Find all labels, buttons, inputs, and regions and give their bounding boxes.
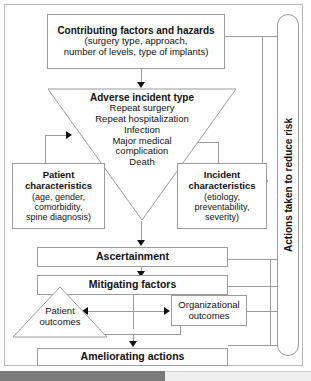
horizontal-scrollbar-thumb[interactable] [0,371,165,381]
diagram-canvas: Contributing factors and hazards (surger… [0,0,311,381]
patient-outcomes-line2: outcomes [12,317,108,328]
adverse-item-2: Infection [47,125,237,136]
node-patient-outcomes[interactable]: Patient outcomes [12,286,108,338]
connector-organizational-to-actions [246,311,277,312]
node-contributing-factors[interactable]: Contributing factors and hazards (surger… [47,14,225,69]
connector-adverse-to-ascertainment [141,221,142,242]
connector-ameliorating-to-actions [228,345,277,346]
arrowhead-to-ameliorating [129,341,137,347]
organizational-outcomes-line1: Organizational [178,300,239,311]
node-actions-taken-panel[interactable]: Actions taken to reduce risk [277,14,299,356]
node-organizational-outcomes[interactable]: Organizational outcomes [171,295,247,326]
connector-mitigating-to-actions [228,286,277,287]
patient-char-detail-3: spine diagnosis) [26,212,91,222]
arrowhead-adverse-to-ascertainment [137,240,145,246]
incident-char-detail-3: severity) [205,212,239,222]
node-patient-characteristics[interactable]: Patient characteristics (age, gender, co… [12,163,105,229]
organizational-outcomes-line2: outcomes [188,311,229,322]
incident-char-detail-2: preventability, [195,202,250,212]
connector-contributing-to-actions-h [225,36,277,37]
incident-char-title-2: characteristics [188,181,255,192]
incident-char-detail-1: (etiology, [204,192,240,202]
adverse-text-block: Adverse incident type Repeat surgery Rep… [47,92,237,168]
contributing-detail-line2: number of levels, type of implants) [64,47,209,58]
node-incident-characteristics[interactable]: Incident characteristics (etiology, prev… [177,163,267,229]
patient-char-title-2: characteristics [25,181,92,192]
connector-actions-bus-lower [270,259,271,345]
patient-char-detail-1: (age, gender, [32,192,85,202]
ameliorating-label: Ameliorating actions [81,351,185,363]
connector-actions-bus-vertical [262,36,263,182]
connector-patient-char-up [45,135,46,164]
node-ascertainment[interactable]: Ascertainment [37,247,228,267]
node-ameliorating-actions[interactable]: Ameliorating actions [37,348,228,366]
ascertainment-label: Ascertainment [96,251,169,263]
actions-panel-label: Actions taken to reduce risk [283,118,294,252]
patient-char-detail-2: comorbidity, [35,202,83,212]
patient-outcomes-text: Patient outcomes [12,306,108,327]
connector-organizational-outcomes-down [180,325,181,335]
arrowhead-to-organizational-outcomes [164,307,170,315]
connector-to-organizational-outcomes [133,311,165,312]
